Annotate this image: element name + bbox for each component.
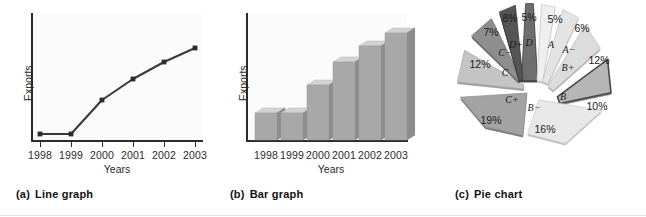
pie-label-A-minus: A− (562, 44, 576, 55)
line-x-tick-label: 2003 (180, 149, 210, 161)
line-series-svg (0, 0, 215, 217)
pie-label-B-plus: B+ (562, 62, 575, 73)
pie-pct-C-minus: 7% (483, 26, 498, 38)
line-x-tick-label: 1998 (25, 149, 55, 161)
bar-x-tick-label: 2003 (381, 149, 411, 161)
bar-2000 (307, 80, 337, 140)
panel-b-caption: (b)Bar graph (230, 188, 303, 200)
line-x-tick-label: 2002 (149, 149, 179, 161)
pie-pct-C: 12% (469, 58, 490, 70)
pie-label-A: A (547, 39, 555, 50)
panel-c-caption-text: Pie chart (474, 188, 522, 200)
line-x-tick-label: 2000 (87, 149, 117, 161)
bar-1998 (255, 108, 285, 140)
pie-pct-D: 5% (521, 11, 536, 23)
pie-pct-B-minus: 16% (534, 123, 555, 135)
panel-a-caption-tag: (a) (16, 188, 30, 200)
line-x-tick-label: 1999 (56, 149, 86, 161)
panel-a-caption: (a)Line graph (16, 188, 93, 200)
panel-c-caption: (c)Pie chart (455, 188, 522, 200)
pie-pct-A: 5% (547, 13, 562, 25)
panel-b-caption-text: Bar graph (250, 188, 304, 200)
figure-bottom-rule (0, 215, 646, 216)
pie-label-B: B (560, 91, 566, 102)
bar-x-axis-label: Years (251, 163, 411, 175)
pie-pct-B-plus: 12% (588, 54, 609, 66)
pie-pct-D-plus: 8% (502, 12, 517, 24)
pie-label-C-plus: C+ (505, 94, 518, 105)
bar-2001 (333, 57, 363, 140)
panel-pie-chart: 5% D 5% A 6% A− 12% B+ 10% B 16% B− 19% … (415, 0, 646, 217)
pie-label-D: D (524, 37, 533, 48)
panel-bar-graph: Exports 1998 1999 2000 2001 2002 2003 Ye… (215, 0, 415, 217)
panel-a-caption-text: Line graph (35, 188, 93, 200)
line-x-tick-label: 2001 (118, 149, 148, 161)
pie-pct-C-plus: 19% (480, 114, 501, 126)
pie-pct-B: 10% (586, 100, 607, 112)
pie-pct-A-minus: 6% (574, 22, 589, 34)
pie-label-B-minus: B− (528, 102, 541, 113)
bar-2002 (359, 41, 389, 140)
bar-y-axis-label: Exports (237, 65, 249, 101)
pie-label-D-plus: D+ (508, 39, 523, 50)
bar-1999 (281, 108, 311, 140)
pie-slices-svg: 5% D 5% A 6% A− 12% B+ 10% B 16% B− 19% … (415, 0, 646, 217)
bar-series-svg (215, 0, 415, 217)
panel-c-caption-tag: (c) (455, 188, 469, 200)
line-x-axis-label: Years (32, 163, 202, 175)
line-y-axis-label: Exports (22, 65, 34, 101)
panel-line-graph: Exports 1998 1999 2000 2001 2002 2003 Ye… (0, 0, 215, 217)
panel-b-caption-tag: (b) (230, 188, 245, 200)
bar-2003 (385, 28, 415, 140)
pie-label-C: C (502, 67, 509, 78)
